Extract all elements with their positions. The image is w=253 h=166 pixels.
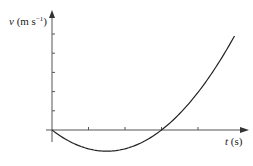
- y-axis-arrow-icon: [49, 10, 55, 18]
- x-axis-label: t (s): [225, 135, 243, 148]
- y-axis-label: v (m s−1): [9, 15, 47, 28]
- velocity-curve: [52, 36, 235, 151]
- x-axis-arrow-icon: [240, 127, 249, 133]
- velocity-time-graph: v (m s−1) t (s): [0, 0, 253, 166]
